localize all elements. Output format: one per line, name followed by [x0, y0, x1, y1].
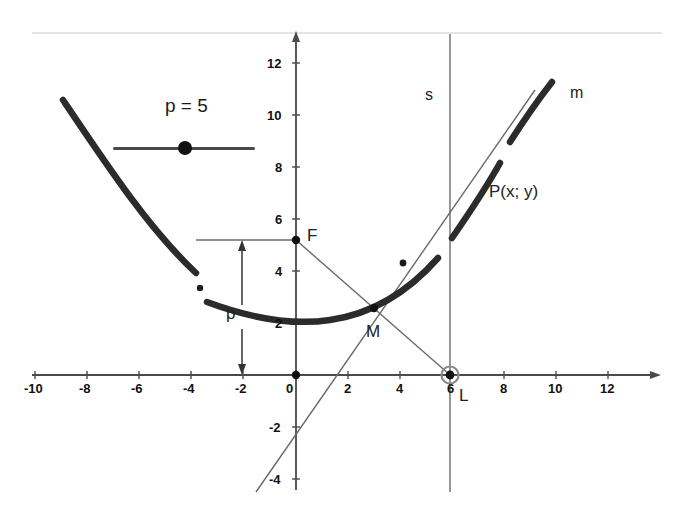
- parabola-vertex-marker-dot: [197, 285, 203, 291]
- midpoint-label: M: [366, 322, 380, 342]
- y-tick-label-8: 8: [275, 160, 282, 175]
- directrix-point-label: L: [459, 386, 468, 406]
- x-tick-label-0: 0: [286, 381, 293, 396]
- distance-arrow-lower: [238, 329, 246, 375]
- x-tick-label--4: -4: [183, 381, 195, 396]
- line-m-label: m: [570, 84, 583, 102]
- focus-point[interactable]: [292, 236, 300, 244]
- tangent-touch-marker-dot: [400, 260, 407, 267]
- x-tick-label-4: 4: [396, 381, 403, 396]
- parameter-slider[interactable]: [113, 140, 255, 156]
- y-tick-label-6: 6: [275, 212, 282, 227]
- parabola-curve-right-dash: [510, 82, 552, 142]
- focus-label: F: [307, 226, 317, 246]
- x-tick-label-2: 2: [344, 381, 351, 396]
- x-tick-label-12: 12: [600, 381, 614, 396]
- line-s-label: s: [425, 86, 433, 104]
- y-tick-label--2: -2: [269, 420, 281, 435]
- x-tick-label--8: -8: [79, 381, 91, 396]
- parabola-geometry-figure: p = 5 -10 -8 -6 -4 -2 0 2 4 6 8 10 12 -4…: [0, 0, 685, 512]
- point-p-label: P(x; y): [489, 182, 538, 202]
- x-tick-label--10: -10: [24, 381, 43, 396]
- slider-caption: p = 5: [165, 95, 208, 117]
- figure-canvas: [0, 0, 685, 512]
- x-axis-arrowhead: [650, 371, 661, 379]
- parabola-curve-left: [63, 100, 196, 273]
- x-tick-label--2: -2: [235, 381, 247, 396]
- origin-point: [292, 371, 300, 379]
- midpoint-point[interactable]: [370, 304, 378, 312]
- y-tick-label-4: 4: [275, 264, 282, 279]
- y-tick-label--4: -4: [269, 472, 281, 487]
- distance-arrow-upper: [238, 240, 246, 305]
- y-tick-label-12: 12: [267, 56, 281, 71]
- y-tick-label-10: 10: [267, 108, 281, 123]
- x-tick-label-6: 6: [447, 381, 454, 396]
- y-tick-label-2: 2: [275, 316, 282, 331]
- x-tick-label--6: -6: [131, 381, 143, 396]
- line-m-tangent: [256, 90, 535, 492]
- slider-knob[interactable]: [178, 141, 192, 155]
- x-tick-label-8: 8: [500, 381, 507, 396]
- parameter-p-label: p: [226, 304, 235, 324]
- x-tick-label-10: 10: [548, 381, 562, 396]
